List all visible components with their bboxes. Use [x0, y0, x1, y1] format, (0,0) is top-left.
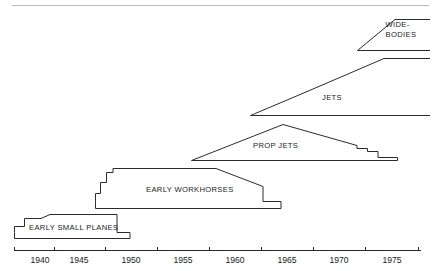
x-tick-label-1965: 1965 — [277, 255, 296, 265]
band-chart-figure: WIDE- BODIES JETS PROP JETS EARLY WORKHO… — [0, 0, 438, 271]
x-tick-label-1970: 1970 — [329, 255, 348, 265]
band-label-jets: JETS — [322, 93, 342, 102]
series-band-wide-bodies: WIDE- BODIES — [358, 20, 431, 51]
band-label-wide-bodies-line1: WIDE- — [386, 20, 410, 29]
band-outline-jets — [251, 59, 431, 116]
x-tick-label-1960: 1960 — [225, 255, 244, 265]
series-band-early-small-planes: EARLY SMALL PLANES — [15, 215, 131, 239]
chart-container: WIDE- BODIES JETS PROP JETS EARLY WORKHO… — [0, 0, 438, 271]
band-label-wide-bodies-line2: BODIES — [386, 30, 417, 39]
series-band-early-workhorses: EARLY WORKHORSES — [96, 169, 282, 209]
series-band-jets: JETS — [251, 59, 431, 116]
x-tick-label-1940: 1940 — [30, 255, 49, 265]
series-band-prop-jets: PROP JETS — [192, 125, 398, 161]
x-axis: 1940 1945 1950 1955 1960 1965 1970 1975 — [14, 247, 421, 265]
band-label-prop-jets: PROP JETS — [253, 141, 298, 150]
band-label-early-small-planes: EARLY SMALL PLANES — [29, 223, 118, 232]
x-tick-label-1975: 1975 — [382, 255, 401, 265]
x-tick-label-1955: 1955 — [173, 255, 192, 265]
band-label-early-workhorses: EARLY WORKHORSES — [146, 185, 234, 194]
x-tick-label-1945: 1945 — [69, 255, 88, 265]
x-tick-label-1950: 1950 — [121, 255, 140, 265]
